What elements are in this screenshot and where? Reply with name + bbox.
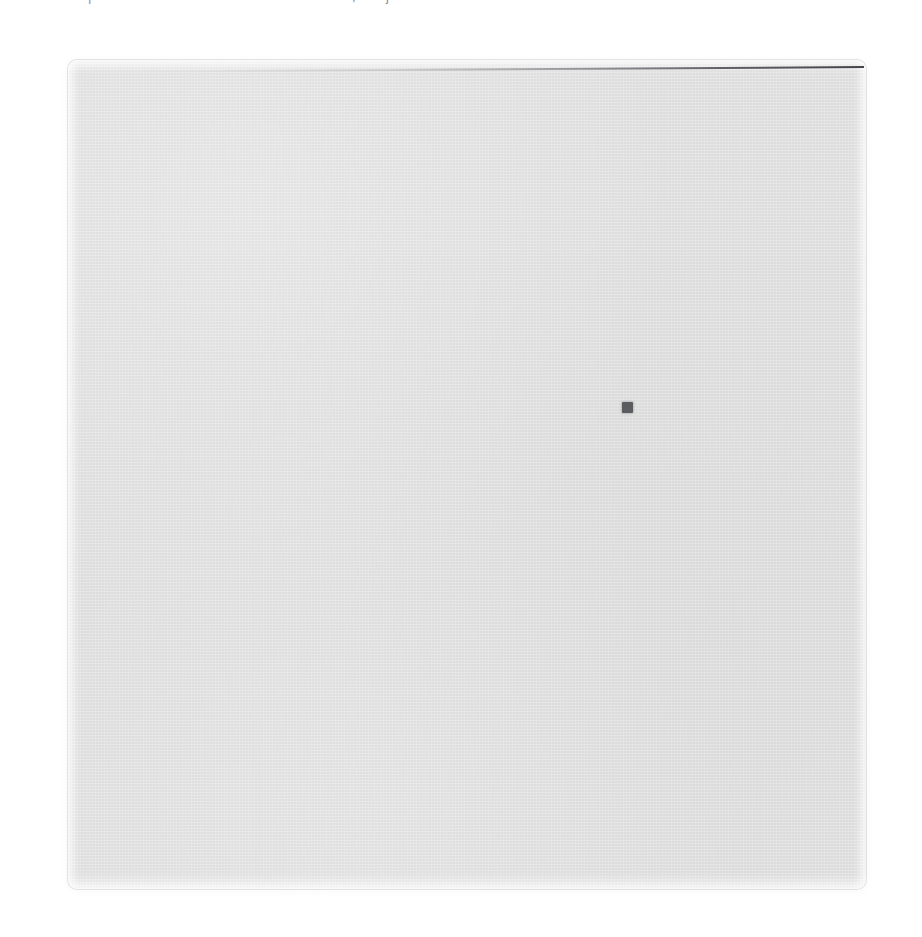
clipped-text-fragment-1: |: [88, 0, 92, 4]
marker-square-icon[interactable]: [622, 402, 633, 413]
clipped-text-fragment-4: j: [386, 0, 389, 4]
clipped-header-text: | , j: [0, 0, 922, 5]
content-panel[interactable]: [68, 60, 866, 889]
screenshot-canvas: | , j: [0, 0, 922, 937]
clipped-text-fragment-3: ,: [352, 0, 356, 4]
panel-body-text: [68, 60, 866, 889]
